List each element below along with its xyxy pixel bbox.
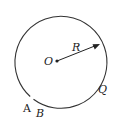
- center-label: O: [44, 55, 53, 68]
- point-q-label: Q: [98, 83, 107, 96]
- arrow-head-icon: [93, 44, 101, 50]
- circle-diagram: O R A B Q: [0, 0, 115, 129]
- radius-label: R: [71, 41, 80, 54]
- point-a-label: A: [22, 102, 32, 115]
- circle-arc: [15, 16, 107, 108]
- point-b-label: B: [35, 107, 44, 120]
